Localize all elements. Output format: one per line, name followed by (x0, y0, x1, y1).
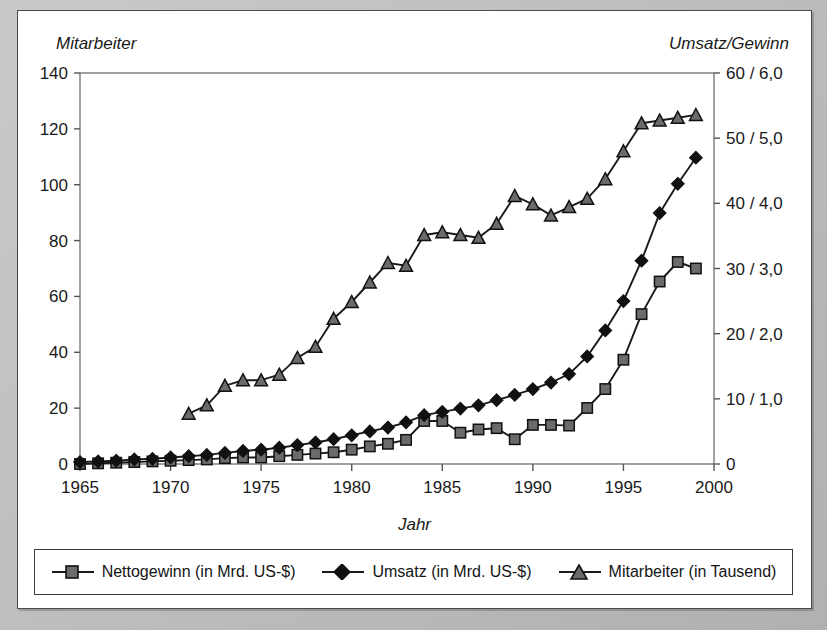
x-axis-tick-label: 1965 (61, 478, 99, 497)
diamond-data-point (309, 436, 321, 448)
x-axis-tick-label: 2000 (695, 478, 733, 497)
triangle-data-point (545, 209, 558, 221)
x-axis-tick-label: 1990 (514, 478, 552, 497)
square-data-point (473, 424, 483, 434)
right-axis-tick-label: 30 / 3,0 (726, 260, 783, 279)
legend-item-mitarbeiter[interactable]: Mitarbeiter (in Tausend) (558, 563, 777, 581)
square-data-point (310, 448, 320, 458)
diamond-data-point (617, 295, 629, 307)
diamond-data-point (635, 254, 647, 266)
square-data-point (510, 434, 520, 444)
left-axis-tick-label: 80 (49, 232, 68, 251)
right-axis-tick-label: 60 / 6,0 (726, 64, 783, 83)
x-axis-tick-label: 1985 (423, 478, 461, 497)
square-marker-icon (51, 564, 95, 580)
diamond-data-point (364, 425, 376, 437)
triangle-data-point (526, 198, 539, 210)
diamond-data-point (653, 207, 665, 219)
legend-label-nettogewinn: Nettogewinn (in Mrd. US-$) (102, 563, 296, 581)
square-data-point (618, 355, 628, 365)
square-data-point (455, 428, 465, 438)
square-data-point (347, 444, 357, 454)
square-data-point (491, 423, 501, 433)
series-square (75, 257, 701, 469)
triangle-data-point (599, 173, 612, 185)
diamond-data-point (490, 394, 502, 406)
series-line (80, 158, 696, 462)
triangle-data-point (490, 217, 503, 229)
diamond-data-point (346, 429, 358, 441)
right-axis-tick-label: 0 (726, 455, 735, 474)
legend-label-mitarbeiter: Mitarbeiter (in Tausend) (609, 563, 777, 581)
square-data-point (546, 420, 556, 430)
series-diamond (74, 152, 702, 469)
triangle-data-point (291, 351, 304, 363)
triangle-marker-icon (558, 564, 602, 580)
diamond-data-point (545, 376, 557, 388)
diamond-data-point (454, 402, 466, 414)
series-line (189, 115, 696, 414)
diamond-data-point (599, 324, 611, 336)
square-data-point (328, 447, 338, 457)
diamond-data-point (509, 389, 521, 401)
square-data-point (691, 263, 701, 273)
chart-legend: Nettogewinn (in Mrd. US-$) Umsatz (in Mr… (34, 549, 793, 595)
diamond-marker-icon (321, 564, 365, 580)
triangle-data-point (563, 201, 576, 213)
plot-area: 020406080100120140010 / 1,020 / 2,030 / … (18, 11, 811, 608)
chart-svg: 020406080100120140010 / 1,020 / 2,030 / … (18, 11, 811, 608)
right-axis-tick-label: 40 / 4,0 (726, 194, 783, 213)
diamond-data-point (672, 178, 684, 190)
triangle-data-point (309, 340, 322, 352)
triangle-data-point (382, 257, 395, 269)
triangle-data-point (617, 145, 630, 157)
chart-card: Mitarbeiter Umsatz/Gewinn Jahr 020406080… (17, 10, 812, 609)
diamond-data-point (690, 152, 702, 164)
triangle-data-point (508, 189, 521, 201)
legend-item-umsatz[interactable]: Umsatz (in Mrd. US-$) (321, 563, 531, 581)
x-axis-tick-label: 1975 (242, 478, 280, 497)
x-axis-tick-label: 1970 (152, 478, 190, 497)
series-triangle (182, 108, 702, 419)
left-axis-tick-label: 140 (40, 64, 68, 83)
legend-item-nettogewinn[interactable]: Nettogewinn (in Mrd. US-$) (51, 563, 296, 581)
triangle-data-point (182, 407, 195, 419)
left-axis-tick-label: 120 (40, 120, 68, 139)
diamond-data-point (527, 383, 539, 395)
x-axis-tick-label: 1995 (605, 478, 643, 497)
square-data-point (383, 439, 393, 449)
diamond-data-point (327, 433, 339, 445)
square-data-point (600, 384, 610, 394)
triangle-data-point (689, 108, 702, 120)
right-axis-tick-label: 50 / 5,0 (726, 129, 783, 148)
left-axis-tick-label: 20 (49, 399, 68, 418)
left-axis-tick-label: 0 (59, 455, 68, 474)
diamond-data-point (400, 416, 412, 428)
screenshot-frame: Mitarbeiter Umsatz/Gewinn Jahr 020406080… (0, 0, 827, 630)
square-data-point (528, 420, 538, 430)
square-data-point (673, 257, 683, 267)
diamond-data-point (382, 421, 394, 433)
square-data-point (636, 309, 646, 319)
left-axis-tick-label: 40 (49, 343, 68, 362)
square-data-point (365, 441, 375, 451)
square-data-point (564, 420, 574, 430)
triangle-data-point (436, 226, 449, 238)
right-axis-tick-label: 20 / 2,0 (726, 325, 783, 344)
square-data-point (582, 403, 592, 413)
square-data-point (654, 276, 664, 286)
x-axis-tick-label: 1980 (333, 478, 371, 497)
square-data-point (401, 435, 411, 445)
left-axis-tick-label: 100 (40, 176, 68, 195)
left-axis-tick-label: 60 (49, 287, 68, 306)
right-axis-tick-label: 10 / 1,0 (726, 390, 783, 409)
diamond-data-point (472, 399, 484, 411)
legend-label-umsatz: Umsatz (in Mrd. US-$) (372, 563, 531, 581)
